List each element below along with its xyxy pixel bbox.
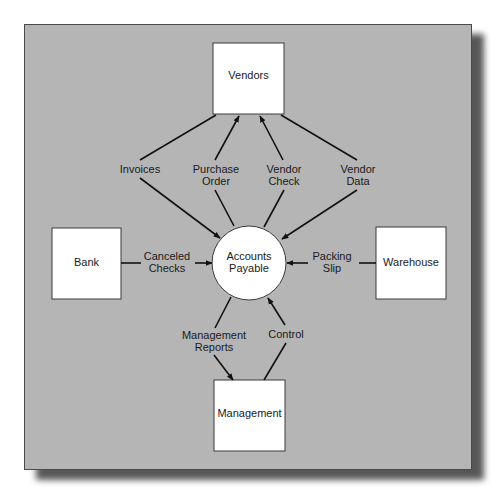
process-accounts-payable: Accounts Payable bbox=[212, 226, 286, 300]
bank-label: Bank bbox=[74, 256, 100, 268]
vendor-check-arrow bbox=[260, 116, 283, 160]
flow-control: Control bbox=[264, 298, 304, 380]
warehouse-label: Warehouse bbox=[383, 256, 439, 268]
entity-bank: Bank bbox=[52, 228, 121, 299]
canceled-checks-label-line-2: Checks bbox=[149, 262, 186, 274]
flow-packing-slip: Packing Slip bbox=[287, 250, 376, 274]
management-reports-line-upper bbox=[215, 297, 231, 328]
entity-warehouse: Warehouse bbox=[376, 227, 446, 299]
flow-management-reports: Management Reports bbox=[182, 297, 246, 380]
control-line-lower bbox=[264, 343, 286, 380]
management-reports-label-line-1: Management bbox=[182, 329, 246, 341]
purchase-order-label-line-1: Purchase bbox=[193, 163, 239, 175]
purchase-order-arrow bbox=[215, 116, 239, 160]
canceled-checks-label-line-1: Canceled bbox=[144, 250, 190, 262]
vendor-data-label-line-2: Data bbox=[346, 175, 370, 187]
vendor-data-arrow bbox=[282, 190, 357, 239]
accounts-payable-label-line-1: Accounts bbox=[226, 250, 272, 262]
purchase-order-line-lower bbox=[215, 190, 234, 226]
packing-slip-label-line-2: Slip bbox=[323, 262, 341, 274]
flow-canceled-checks: Canceled Checks bbox=[121, 250, 212, 274]
entity-management: Management bbox=[214, 380, 285, 451]
management-reports-label-line-2: Reports bbox=[195, 341, 234, 353]
entity-vendors: Vendors bbox=[213, 43, 284, 114]
packing-slip-label-line-1: Packing bbox=[312, 250, 351, 262]
control-arrow bbox=[268, 298, 285, 325]
vendor-data-line-upper bbox=[281, 115, 357, 160]
invoices-line-upper bbox=[140, 115, 216, 160]
management-label: Management bbox=[217, 407, 281, 419]
vendor-check-label-line-1: Vendor bbox=[267, 163, 302, 175]
vendor-check-line-lower bbox=[264, 190, 284, 227]
vendor-check-label-line-2: Check bbox=[268, 175, 300, 187]
control-label: Control bbox=[268, 328, 303, 340]
vendor-data-label-line-1: Vendor bbox=[341, 163, 376, 175]
vendors-label: Vendors bbox=[228, 69, 269, 81]
purchase-order-label-line-2: Order bbox=[202, 175, 230, 187]
data-flow-diagram: Vendors Bank Warehouse Management Accoun… bbox=[0, 0, 503, 500]
accounts-payable-label-line-2: Payable bbox=[229, 262, 269, 274]
flow-vendor-check: Vendor Check bbox=[260, 116, 302, 227]
invoices-label: Invoices bbox=[120, 163, 161, 175]
flow-purchase-order: Purchase Order bbox=[193, 116, 239, 226]
management-reports-arrow bbox=[214, 355, 233, 380]
invoices-arrow bbox=[140, 178, 220, 238]
